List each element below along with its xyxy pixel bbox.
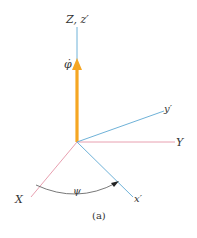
rotation-diagram: Z, z′ φ̇ y′ Y X x′ ψ (a) [0, 0, 197, 238]
diagram-canvas [0, 0, 197, 238]
x-axis-label: X [15, 194, 23, 205]
x-axis-line [31, 142, 77, 197]
x-prime-axis-line [77, 142, 133, 197]
phi-dot-label: φ̇ [64, 59, 72, 70]
x-prime-label: x′ [134, 194, 142, 204]
y-axis-label: Y [176, 137, 183, 148]
z-axis-label: Z, z′ [66, 14, 89, 25]
psi-label: ψ [73, 186, 81, 196]
phi-dot-arrowhead [72, 58, 82, 70]
psi-arrowhead [111, 181, 119, 187]
y-prime-axis-line [77, 111, 164, 142]
y-prime-label: y′ [164, 104, 172, 114]
figure-caption: (a) [92, 211, 106, 221]
